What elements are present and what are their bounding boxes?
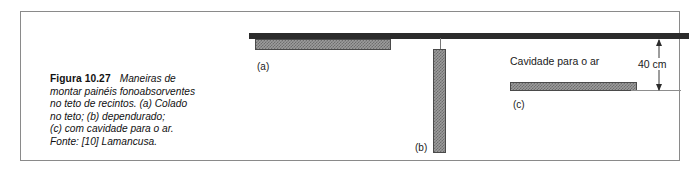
figure-frame: Figura 10.27Maneiras de montar painéis f… bbox=[20, 11, 680, 161]
figure-caption-line-3: no teto; (b) dependurado; bbox=[50, 111, 235, 124]
absorbent-panel-b bbox=[433, 49, 446, 153]
figure-caption-line-4: (c) com cavidade para o ar. bbox=[50, 123, 235, 136]
panel-label-c: (c) bbox=[513, 99, 525, 110]
figure-caption-label: Figura 10.27 bbox=[50, 73, 111, 84]
panel-label-b: (b) bbox=[415, 142, 427, 153]
figure-root: Figura 10.27Maneiras de montar painéis f… bbox=[0, 0, 700, 172]
dimension-label-40cm: 40 cm bbox=[637, 58, 668, 70]
panel-label-a: (a) bbox=[257, 61, 269, 72]
absorbent-panel-c bbox=[510, 82, 637, 91]
absorbent-panel-a bbox=[255, 39, 391, 50]
air-cavity-annotation: Cavidade para o ar bbox=[510, 55, 599, 67]
figure-caption-line-1: montar painéis fonoabsorventes bbox=[50, 86, 235, 99]
figure-caption-line-2: no teto de recintos. (a) Colado bbox=[50, 98, 235, 111]
figure-caption-line-0: Maneiras de bbox=[120, 73, 176, 84]
figure-caption: Figura 10.27Maneiras de montar painéis f… bbox=[50, 73, 235, 149]
figure-caption-line-5: Fonte: [10] Lamancusa. bbox=[50, 136, 235, 149]
